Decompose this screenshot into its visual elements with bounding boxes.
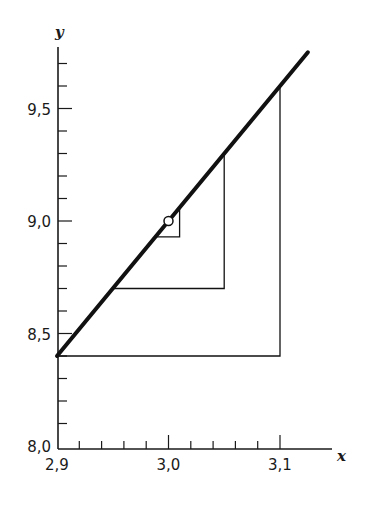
chart: 8,08,59,09,52,93,03,1 y x xyxy=(0,0,373,505)
fixed-point-marker xyxy=(164,217,173,226)
x-tick-label: 2,9 xyxy=(45,456,69,474)
y-tick-label: 9,5 xyxy=(27,101,51,119)
series-group xyxy=(57,52,308,356)
x-axis-label: x xyxy=(336,447,347,465)
axes: 8,08,59,09,52,93,03,1 xyxy=(27,47,332,474)
x-tick-label: 3,1 xyxy=(268,456,292,474)
annotations xyxy=(164,217,173,226)
x-tick-label: 3,0 xyxy=(157,456,181,474)
y-tick-label: 9,0 xyxy=(27,213,51,231)
main-line xyxy=(57,52,308,356)
y-tick-label: 8,0 xyxy=(27,438,51,456)
y-tick-label: 8,5 xyxy=(27,326,51,344)
y-axis-label: y xyxy=(54,23,65,41)
